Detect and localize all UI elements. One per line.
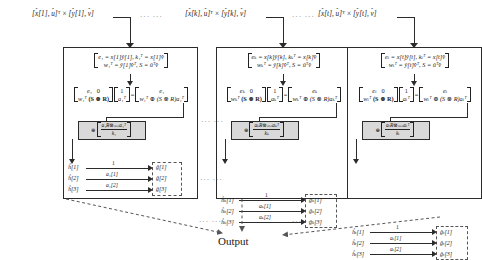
block-t-edge-3-head [432, 251, 437, 257]
block-k-eq2-res1: eₖ [312, 87, 317, 95]
block-k-eq2-v2: aₖᵀ [271, 95, 279, 103]
block-k-arrow-2-head [222, 159, 228, 164]
block-t-edge-3 [370, 254, 434, 255]
block-1-edge-label-3: a₁[2] [106, 182, 118, 188]
block-k-eq2-r2c1: wₖᵀ [231, 95, 240, 102]
block-1-header: [x̂[1], û]T × [ŷ[1], v̂] [32, 10, 94, 18]
block-t-eq2-r1c1: eₜ [372, 87, 376, 94]
block-k-arrow-1-head [280, 81, 286, 86]
block-1-eq2-res1: e₁ [159, 87, 164, 95]
block-k-eq2-r1c1: eₖ [240, 87, 245, 94]
block-t-left-node-3: ĥₜ[3] [352, 250, 364, 257]
block-1-edge-3 [86, 190, 150, 191]
block-t-eq2-v1: 1 [405, 87, 408, 95]
block-t-eq2-r2c2: (S ⊗ R) [373, 95, 394, 102]
block-k-arrow-2-shaft [225, 139, 226, 161]
block-1-eq2: e₁ 0 w₁ᵀ (S ⊗ R) 1 a₁ᵀ = e₁ w₁ᵀ ⊕ (S ⊗ R… [66, 87, 196, 102]
block-t-feedback-v [467, 103, 468, 118]
block-t-header-elbow-h [397, 17, 415, 18]
block-1-left-node-3: ĥ[3] [68, 186, 79, 192]
block-t-eq2-r2c1: wₜᵀ [363, 95, 371, 102]
block-t-eq1: eₜ = x[t]ŷ[t], kₜᵀ = x[t]v̂ wₜᵀ = ŷ[t]v̂… [356, 53, 474, 68]
block-k-eq2-equals: = [284, 91, 288, 98]
block-t-eq2-r1c2: 0 [381, 87, 384, 94]
block-k-eq2-res2: wₖᵀ ⊕ (S ⊗ R)aₖᵀ [292, 95, 337, 103]
block-t-feedback-h [390, 117, 468, 118]
block-t-eq3-den: kₜ [396, 130, 400, 137]
block-k-header-elbow-h [266, 17, 284, 18]
block-1-edge-label-1: 1 [112, 160, 115, 166]
block-1-feedback-v [183, 103, 184, 118]
block-1-eq1-line2: w₁ᵀ = ŷ[1]v̂ᵀ, S = ûᵀv̂ [104, 61, 158, 69]
block-k-eq3: ⊕ aₖR⊗ₘₙaₖᵀ kₖ [231, 121, 297, 138]
block-k-eq3-den: kₖ [265, 130, 269, 137]
block-t-eq3: ⊕ aₜR⊗ₘₙaₜᵀ kₜ [362, 121, 428, 138]
block-1-eq2-r2c2: (S ⊗ R) [88, 95, 109, 102]
block-1-eq2-v1: 1 [120, 87, 123, 95]
block-1-edge-3-head [148, 187, 153, 193]
block-t-eq2-v2: aₜᵀ [403, 95, 410, 103]
block-1-eq2-equals: = [131, 91, 135, 98]
block-t-header: [x̂[t], û]T × [ŷ[t], v̂] [318, 10, 377, 18]
ellipsis-mid-1: ··· ··· [201, 118, 224, 126]
block-k-eq3-num: aₖR⊗ₘₙaₖᵀ [253, 122, 280, 130]
block-k-header-elbow-v [283, 17, 284, 46]
block-1-right-node-3: ĝ[3] [156, 186, 167, 192]
block-1-eq3-num: a₁R⊗ₘₙa₁ᵀ [101, 122, 128, 130]
block-k-eq1-line2: wₖᵀ = ŷ[k]v̂ᵀ, S = ûᵀv̂ [257, 61, 311, 69]
block-1-edge-2 [86, 179, 150, 180]
block-1-header-elbow-h [113, 17, 131, 18]
block-1-header-elbow-v [130, 17, 131, 46]
block-1-eq1: e₁ = x[1]ŷ[1], k₁ᵀ = x[1]v̂ w₁ᵀ = ŷ[1]v̂… [72, 53, 190, 68]
output-arrow-from-block-1 [66, 199, 222, 233]
block-1-left-node-2: ĥ[2] [68, 175, 79, 181]
block-t-eq2-res2: wₜᵀ ⊕ (S ⊗ R)aₜᵀ [423, 95, 466, 103]
block-1-edge-2-head [148, 176, 153, 182]
output-label: Output [218, 235, 249, 247]
block-1-arrow-2-shaft [72, 139, 73, 161]
block-t-right-node-3: ĝₜ[3] [440, 250, 452, 257]
block-1-eq2-r1c2: 0 [97, 87, 100, 94]
block-1-eq3: ⊕ a₁R⊗ₘₙa₁ᵀ k₁ [78, 121, 144, 138]
block-1-arrow-1-head [127, 81, 133, 86]
ellipsis-header-1: ··· ··· [140, 13, 163, 21]
block-t-arrow-2-shaft [356, 139, 357, 161]
block-1-eq1-line1: e₁ = x[1]ŷ[1], k₁ᵀ = x[1]v̂ [98, 53, 164, 61]
block-k-eq2: eₖ 0 wₖᵀ (S ⊗ R) 1 aₖᵀ = eₖ wₖᵀ ⊕ (S ⊗ R… [219, 87, 349, 102]
block-1-graph: ĥ[1] ĥ[2] ĥ[3] ĝ[1] ĝ[2] ĝ[3] 1 a₁[1] a₁… [68, 164, 190, 196]
block-t-eq2-equals: = [415, 91, 419, 98]
block-1-edge-1-head [148, 165, 153, 171]
block-t-eq1-line1: eₜ = x[t]ŷ[t], kₜᵀ = x[t]v̂ [385, 53, 445, 61]
block-1-eq3-den: k₁ [112, 130, 116, 137]
block-1-eq2-r1c1: e₁ [87, 87, 92, 94]
output-arrow-from-block-t [283, 217, 440, 235]
block-t-arrow-2-head [353, 159, 359, 164]
block-k-eq2-r2c2: (S ⊗ R) [241, 95, 262, 102]
block-k-eq1: eₖ = x[k]ŷ[k], kₖᵀ = x[k]v̂ wₖᵀ = ŷ[k]v̂… [225, 53, 343, 68]
block-k-feedback-h [259, 117, 337, 118]
block-t-eq2: eₜ 0 wₜᵀ (S ⊗ R) 1 aₜᵀ = eₜ wₜᵀ ⊕ (S ⊗ R… [350, 87, 480, 102]
block-t-header-elbow-v [414, 17, 415, 46]
block-1-eq2-r2c1: w₁ᵀ [78, 95, 87, 102]
block-1-eq2-v2: a₁ᵀ [118, 95, 126, 103]
block-1-left-node-1: ĥ[1] [68, 164, 79, 170]
block-t-eq3-num: aₜR⊗ₘₙaₜᵀ [385, 122, 410, 130]
block-k-eq1-line1: eₖ = x[k]ŷ[k], kₖᵀ = x[k]v̂ [252, 53, 317, 61]
block-k-feedback-v [336, 103, 337, 118]
ellipsis-header-2: ··· ··· [292, 13, 315, 21]
block-k-eq3-oplus: ⊕ [244, 127, 249, 133]
block-k-eq2-r1c2: 0 [250, 87, 253, 94]
block-t-eq2-res1: eₜ [443, 87, 447, 95]
ellipsis-mid-2: ··· ··· [200, 176, 223, 184]
block-1-edge-1 [86, 168, 150, 169]
block-t-eq3-oplus: ⊕ [376, 127, 381, 133]
block-t-arrow-1-head [411, 81, 417, 86]
block-1-right-node-1: ĝ[1] [156, 164, 167, 170]
block-k-header: [x̂[k], û]T × [ŷ[k], v̂] [185, 10, 246, 18]
block-1-right-node-2: ĝ[2] [156, 175, 167, 181]
block-k-eq2-v1: 1 [273, 87, 276, 95]
block-1-feedback-h [106, 117, 184, 118]
block-1-edge-label-2: a₁[1] [106, 171, 118, 177]
block-1-eq3-oplus: ⊕ [91, 127, 96, 133]
